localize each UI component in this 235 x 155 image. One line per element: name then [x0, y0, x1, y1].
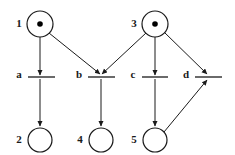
place-label-1: 1	[16, 17, 22, 29]
token-dot-1	[37, 21, 43, 27]
transition-a: a	[16, 68, 55, 80]
place-circle-2	[28, 128, 52, 152]
place-label-4: 4	[77, 133, 83, 145]
place-label-5: 5	[131, 133, 137, 145]
transition-label-b: b	[76, 68, 82, 80]
place-circle-4	[89, 128, 113, 152]
transition-label-d: d	[183, 68, 189, 80]
token-dot-3	[152, 21, 158, 27]
arc-p5-to-td	[164, 80, 207, 132]
place-label-2: 2	[16, 133, 22, 145]
transition-b: b	[76, 68, 115, 80]
arcs-layer	[40, 32, 207, 132]
transitions-layer: abcd	[16, 68, 222, 80]
place-3: 3	[131, 11, 168, 37]
place-2: 2	[16, 128, 52, 152]
arc-p1-to-tb	[49, 33, 100, 74]
transition-c: c	[131, 68, 168, 80]
transition-label-a: a	[16, 68, 22, 80]
place-1: 1	[16, 11, 53, 37]
place-4: 4	[77, 128, 113, 152]
places-layer: 13245	[16, 11, 168, 152]
place-label-3: 3	[131, 17, 137, 29]
arc-p3-to-tb	[102, 33, 146, 74]
place-5: 5	[131, 128, 167, 152]
petri-net-diagram: abcd 13245	[0, 0, 235, 155]
transition-label-c: c	[131, 68, 136, 80]
place-circle-5	[143, 128, 167, 152]
